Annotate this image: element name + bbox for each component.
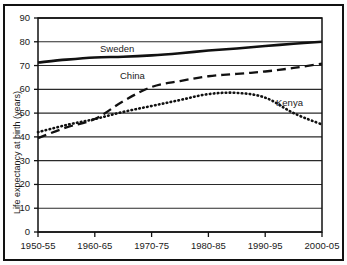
y-axis-title: Life expectancy at birth (years) bbox=[12, 91, 22, 214]
x-tick-label: 1970-75 bbox=[124, 240, 180, 251]
chart-canvas bbox=[0, 0, 347, 265]
y-tick-label: 70 bbox=[8, 60, 30, 71]
series-label-sweden: Sweden bbox=[100, 43, 134, 54]
series-label-kenya: Kenya bbox=[276, 97, 303, 108]
plot-container: 9080706050403020100 1950-551960-651970-7… bbox=[0, 0, 347, 265]
series-line-sweden bbox=[38, 42, 322, 63]
axis-lines bbox=[38, 18, 322, 232]
y-tick-label: 90 bbox=[8, 12, 30, 23]
chart-figure: 9080706050403020100 1950-551960-651970-7… bbox=[0, 0, 347, 265]
x-tick-label: 2000-05 bbox=[294, 240, 347, 251]
x-tick-label: 1950-55 bbox=[10, 240, 66, 251]
gridlines bbox=[38, 18, 322, 232]
data-series-group bbox=[38, 42, 322, 138]
x-tick-label: 1960-65 bbox=[67, 240, 123, 251]
x-tick-label: 1990-95 bbox=[237, 240, 293, 251]
y-tick-label: 80 bbox=[8, 36, 30, 47]
y-tick-label: 0 bbox=[8, 226, 30, 237]
series-label-china: China bbox=[120, 70, 145, 81]
x-tick-label: 1980-85 bbox=[180, 240, 236, 251]
